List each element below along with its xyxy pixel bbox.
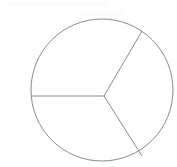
figure-canvas: A thin grey outlined circle partitioned …	[0, 0, 177, 167]
sector-group	[31, 19, 173, 161]
pie-diagram	[0, 0, 177, 167]
